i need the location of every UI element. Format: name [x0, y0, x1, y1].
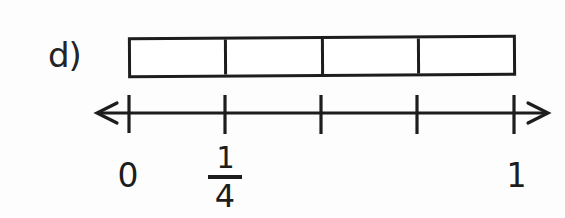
axis-label-one-quarter: 1 4 [203, 143, 247, 212]
right-arrow-icon [528, 103, 548, 123]
fraction-denominator: 4 [203, 180, 247, 212]
number-line [0, 0, 565, 218]
bar-cell [420, 38, 513, 74]
worksheet-figure: d) 0 1 4 1 [0, 0, 565, 218]
left-arrow-icon [97, 103, 117, 123]
axis-label-one: 1 [494, 158, 538, 194]
fraction-numerator: 1 [203, 143, 247, 173]
problem-label: d) [48, 36, 81, 74]
bar-model [128, 35, 516, 78]
bar-cell [227, 39, 323, 75]
bar-cell [323, 38, 419, 74]
bar-cell [131, 40, 227, 76]
axis-label-zero: 0 [106, 158, 150, 194]
